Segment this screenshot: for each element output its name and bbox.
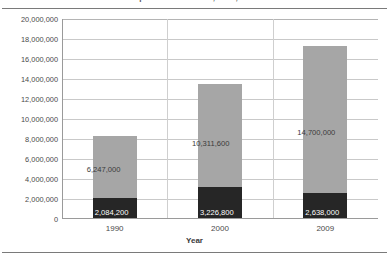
plot-frame [62,19,378,219]
x-axis-title: Year [0,236,389,245]
y-axis-tick-label: 4,000,000 [0,175,58,184]
y-axis-tick-label: 16,000,000 [0,55,58,64]
figure-top-rule [2,8,387,9]
y-axis-tick-label: 12,000,000 [0,95,58,104]
y-axis-tick-label: 8,000,000 [0,135,58,144]
y-axis-tick-label: 6,000,000 [0,155,58,164]
y-axis-tick-label: 2,000,000 [0,195,58,204]
y-axis-tick-label: 10,000,000 [0,115,58,124]
y-axis-tick-label: 0 [0,215,58,224]
x-axis-tick-label: 1990 [70,224,160,233]
y-axis-tick-label: 20,000,000 [0,15,58,24]
x-axis-tick-label: 2000 [175,224,265,233]
chart-plot-area: 6,247,0002,084,20010,311,6003,226,80014,… [62,19,378,219]
figure-bottom-rule [2,252,387,253]
figure-title: Net Liquid Assets in 1990, 2000, and 200… [0,0,389,2]
y-axis-tick-label: 14,000,000 [0,75,58,84]
x-axis-tick-label: 2009 [280,224,370,233]
figure-container: Net Liquid Assets in 1990, 2000, and 200… [0,0,389,263]
y-axis-tick-label: 18,000,000 [0,35,58,44]
